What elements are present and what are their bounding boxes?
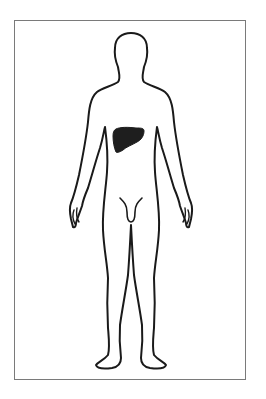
human-body-figure <box>0 0 266 399</box>
groin-detail <box>120 198 142 222</box>
body-outline <box>70 33 192 369</box>
liver-organ <box>113 127 144 152</box>
